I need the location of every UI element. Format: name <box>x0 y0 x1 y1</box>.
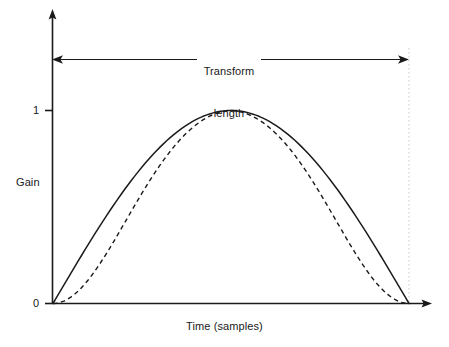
x-axis-label: Time (samples) <box>0 320 449 333</box>
y-tick-label-1: 1 <box>33 104 39 117</box>
transform-length-label-line1: Transform <box>179 64 279 78</box>
y-axis-label: Gain <box>16 176 40 189</box>
y-tick-label-0: 0 <box>33 297 39 310</box>
transform-length-label-line2: length <box>179 106 279 120</box>
transform-length-label: Transform length <box>179 36 279 148</box>
window-function-figure: Gain Time (samples) 1 0 Transform length <box>0 0 449 347</box>
